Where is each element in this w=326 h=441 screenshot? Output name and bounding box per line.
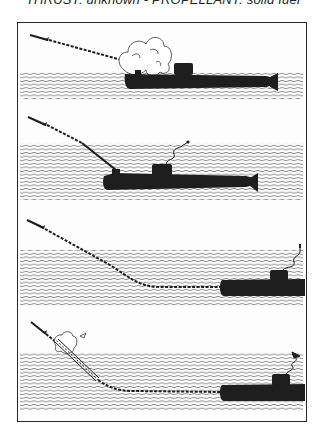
panel-4 xyxy=(20,322,305,410)
panel-2 xyxy=(20,117,303,200)
smoke-cloud-icon xyxy=(119,37,171,75)
missile-icon xyxy=(28,117,47,126)
missile-icon xyxy=(30,35,49,41)
launch-sequence-illustration xyxy=(0,0,326,441)
dashed-trajectory xyxy=(47,125,82,143)
water-band xyxy=(20,353,303,410)
missile-icon xyxy=(27,220,45,229)
water-band xyxy=(20,250,303,306)
panel-3 xyxy=(20,220,305,306)
missile-icon xyxy=(31,322,47,334)
panel-1 xyxy=(20,35,303,99)
